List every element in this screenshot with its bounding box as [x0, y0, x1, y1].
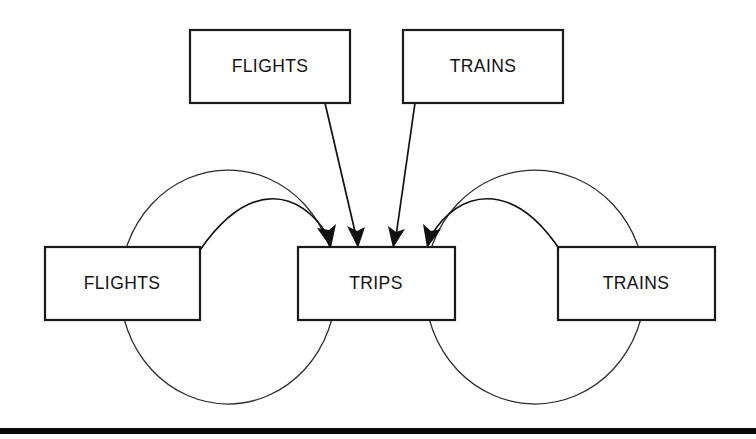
- entity-trains-right[interactable]: TRAINS: [558, 247, 715, 320]
- arrow-flights-left-to-trips-head: [317, 224, 336, 248]
- diagram-svg: FLIGHTS TRAINS FLIGHTS TRIPS TRAINS: [0, 0, 756, 439]
- entity-flights-left[interactable]: FLIGHTS: [45, 247, 200, 320]
- entity-box-group: FLIGHTS TRAINS FLIGHTS TRIPS TRAINS: [45, 30, 715, 320]
- arrow-flights-top-to-trips-line: [325, 103, 356, 236]
- entity-trains-right-label: TRAINS: [603, 273, 670, 293]
- entity-trips-center[interactable]: TRIPS: [298, 247, 455, 320]
- page-footer-rule: [0, 428, 756, 434]
- entity-trains-top[interactable]: TRAINS: [403, 30, 563, 103]
- entity-flights-top[interactable]: FLIGHTS: [190, 30, 350, 103]
- diagram-canvas: FLIGHTS TRAINS FLIGHTS TRIPS TRAINS: [0, 0, 756, 439]
- arrow-flights-left-to-trips-line: [200, 199, 328, 250]
- arrow-group: [200, 103, 560, 250]
- entity-flights-left-label: FLIGHTS: [84, 273, 161, 293]
- entity-flights-top-label: FLIGHTS: [232, 56, 309, 76]
- entity-trips-center-label: TRIPS: [349, 273, 403, 293]
- entity-trains-top-label: TRAINS: [450, 56, 517, 76]
- arrow-flights-top-to-trips-head: [347, 226, 365, 248]
- arrow-trains-top-to-trips-line: [396, 103, 415, 236]
- arrow-trains-right-to-trips-line: [431, 199, 560, 250]
